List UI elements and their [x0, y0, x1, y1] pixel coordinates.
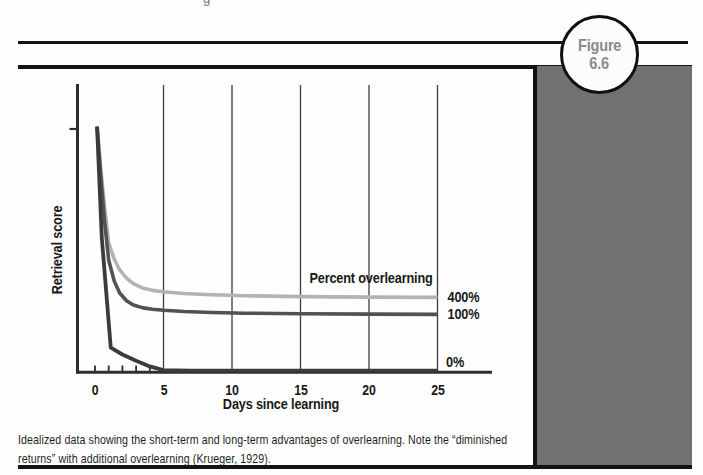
x-tick-label-15: 15 [292, 381, 308, 398]
x-tick-label-25: 25 [429, 381, 445, 398]
x-tick-label-5: 5 [159, 381, 167, 398]
bottom-rule-line [18, 465, 692, 469]
gray-side-panel [533, 66, 692, 465]
figure-badge-word: Figure [578, 37, 621, 55]
x-tick-label-10: 10 [224, 381, 240, 398]
series-label-400%: 400% [444, 288, 483, 306]
series-group-label: Percent overlearning [296, 269, 446, 287]
series-label-100%: 100% [444, 305, 483, 323]
series-label-0%: 0% [444, 353, 466, 371]
series-line-0% [97, 127, 437, 371]
figure-number-badge: Figure 6.6 [560, 15, 639, 94]
figure-caption: Idealized data showing the short-term an… [18, 431, 528, 469]
x-tick-label-0: 0 [91, 381, 99, 398]
figure-badge-number: 6.6 [590, 55, 610, 73]
y-axis-label: Retrieval score [48, 196, 66, 304]
x-tick-label-20: 20 [361, 381, 377, 398]
